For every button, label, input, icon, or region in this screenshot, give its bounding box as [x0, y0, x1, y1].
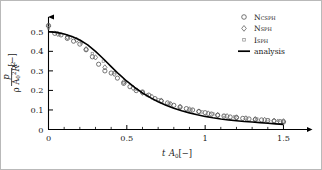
series-nsph [46, 24, 285, 124]
svg-text:t A0[−]: t A0[−] [162, 148, 192, 159]
x-axis-title: t A0[−] [162, 148, 192, 159]
legend-entry-analysis: analysis [238, 47, 285, 56]
legend-marker-square [243, 39, 246, 42]
y-axis-tick-labels: 00.10.20.30.40.5 [30, 27, 43, 135]
y-axis-ticks [49, 32, 54, 130]
legend-entry-ncsph: Ncsph [242, 13, 277, 22]
legend-marker-diamond [242, 26, 247, 32]
y-tick-label: 0 [38, 125, 43, 135]
legend-entry-nsph: Nsph [242, 24, 273, 33]
data-point-circle [197, 109, 201, 113]
chart-legend: NcsphNsphIsphanalysis [238, 13, 285, 56]
y-tick-label: 0.3 [30, 66, 43, 76]
y-axis-title: p ρ A02R2 [−] [1, 53, 21, 92]
legend-label: Ncsph [254, 13, 276, 22]
x-axis-ticks [49, 125, 284, 130]
data-point-circle [97, 62, 101, 66]
legend-label: Nsph [254, 24, 272, 33]
plot-axes [48, 17, 307, 130]
data-series-markers [46, 23, 285, 124]
x-axis-tick-labels: 00.511.5 [46, 133, 290, 143]
x-tick-label: 0.5 [120, 133, 133, 143]
legend-entry-isph: Isph [243, 36, 269, 45]
legend-label: Isph [254, 36, 269, 45]
svg-text:[−]: [−] [7, 53, 17, 67]
y-tick-label: 0.4 [30, 46, 43, 56]
legend-label: analysis [254, 47, 285, 56]
analysis-line [49, 32, 284, 125]
x-tick-label: 1.5 [277, 133, 290, 143]
y-tick-label: 0.5 [30, 27, 43, 37]
pressure-decay-chart: 00.511.5 00.10.20.30.40.5 t A0[−] p ρ A0… [1, 1, 322, 170]
data-point-circle [115, 76, 119, 80]
series-ncsph [46, 23, 285, 124]
legend-marker-circle [242, 15, 247, 20]
data-point-square [91, 52, 93, 54]
figure-container: 00.511.5 00.10.20.30.40.5 t A0[−] p ρ A0… [0, 0, 322, 170]
x-tick-label: 0 [46, 133, 51, 143]
y-tick-label: 0.1 [30, 105, 43, 115]
x-tick-label: 1 [203, 133, 208, 143]
y-tick-label: 0.2 [30, 85, 43, 95]
